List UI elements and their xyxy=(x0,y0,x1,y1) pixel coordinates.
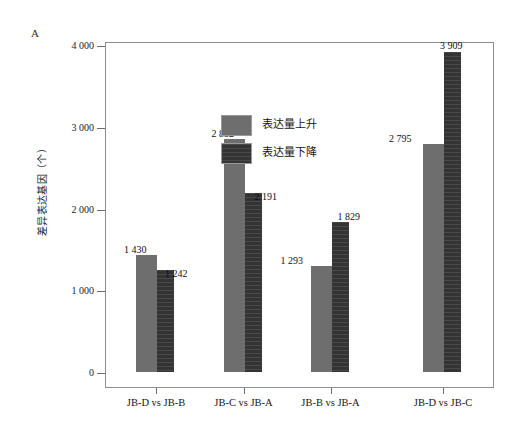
y-axis-tick-mark xyxy=(97,373,105,374)
y-axis-title: 差异表达基因（个） xyxy=(34,115,49,265)
legend-swatch-up-icon xyxy=(221,115,252,136)
x-axis-tick-mark xyxy=(331,388,332,394)
x-axis-tick-mark xyxy=(156,388,157,394)
bar-down xyxy=(332,222,349,372)
y-axis-tick-mark xyxy=(97,210,105,211)
bar-down xyxy=(245,193,262,372)
bar-down xyxy=(157,270,174,372)
y-axis-tick-label: 3 000 xyxy=(46,123,94,133)
bar-value-label-down: 2 191 xyxy=(255,191,278,202)
y-axis-tick-label: 0 xyxy=(46,368,94,378)
plot-area: 1 4301 2422 8522 1911 2931 8292 7953 909… xyxy=(105,42,494,388)
bar-value-label-down: 3 909 xyxy=(440,40,463,51)
y-axis-tick-mark xyxy=(97,46,105,47)
y-axis-tick-mark xyxy=(97,128,105,129)
legend-label-down: 表达量下降 xyxy=(262,146,317,160)
bar-up xyxy=(423,144,444,372)
x-axis-category-label: JB-B vs JB-A xyxy=(266,397,396,409)
bar-value-label-up: 1 293 xyxy=(281,255,304,266)
x-axis-tick-mark xyxy=(244,388,245,394)
figure-canvas: A 01 0002 0003 0004 000 差异表达基因（个） 1 4301… xyxy=(0,0,523,433)
y-axis-tick-label: 4 000 xyxy=(46,41,94,51)
x-axis-tick-mark xyxy=(443,388,444,394)
bar-up xyxy=(136,255,157,372)
y-axis-tick-label: 1 000 xyxy=(46,286,94,296)
bar-value-label-up: 1 430 xyxy=(124,244,147,255)
legend-swatch-down-icon xyxy=(221,143,252,164)
bar-value-label-up: 2 795 xyxy=(389,133,412,144)
bar-value-label-down: 1 242 xyxy=(165,268,188,279)
y-axis-tick-mark xyxy=(97,291,105,292)
bar-up xyxy=(224,139,245,372)
bar-up xyxy=(311,266,332,372)
bar-down xyxy=(444,52,461,372)
x-axis-category-label: JB-D vs JB-C xyxy=(378,397,508,409)
legend-label-up: 表达量上升 xyxy=(262,118,317,132)
y-axis-tick-label: 2 000 xyxy=(46,205,94,215)
bar-value-label-down: 1 829 xyxy=(338,211,361,222)
panel-label: A xyxy=(31,27,39,39)
